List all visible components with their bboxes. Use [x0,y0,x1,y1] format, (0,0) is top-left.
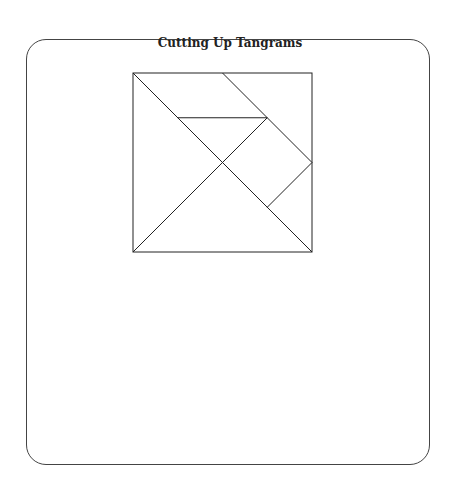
tangram-diagram [0,0,460,488]
tangram-cut-line [133,118,267,252]
tangram-cut-line [267,163,312,208]
